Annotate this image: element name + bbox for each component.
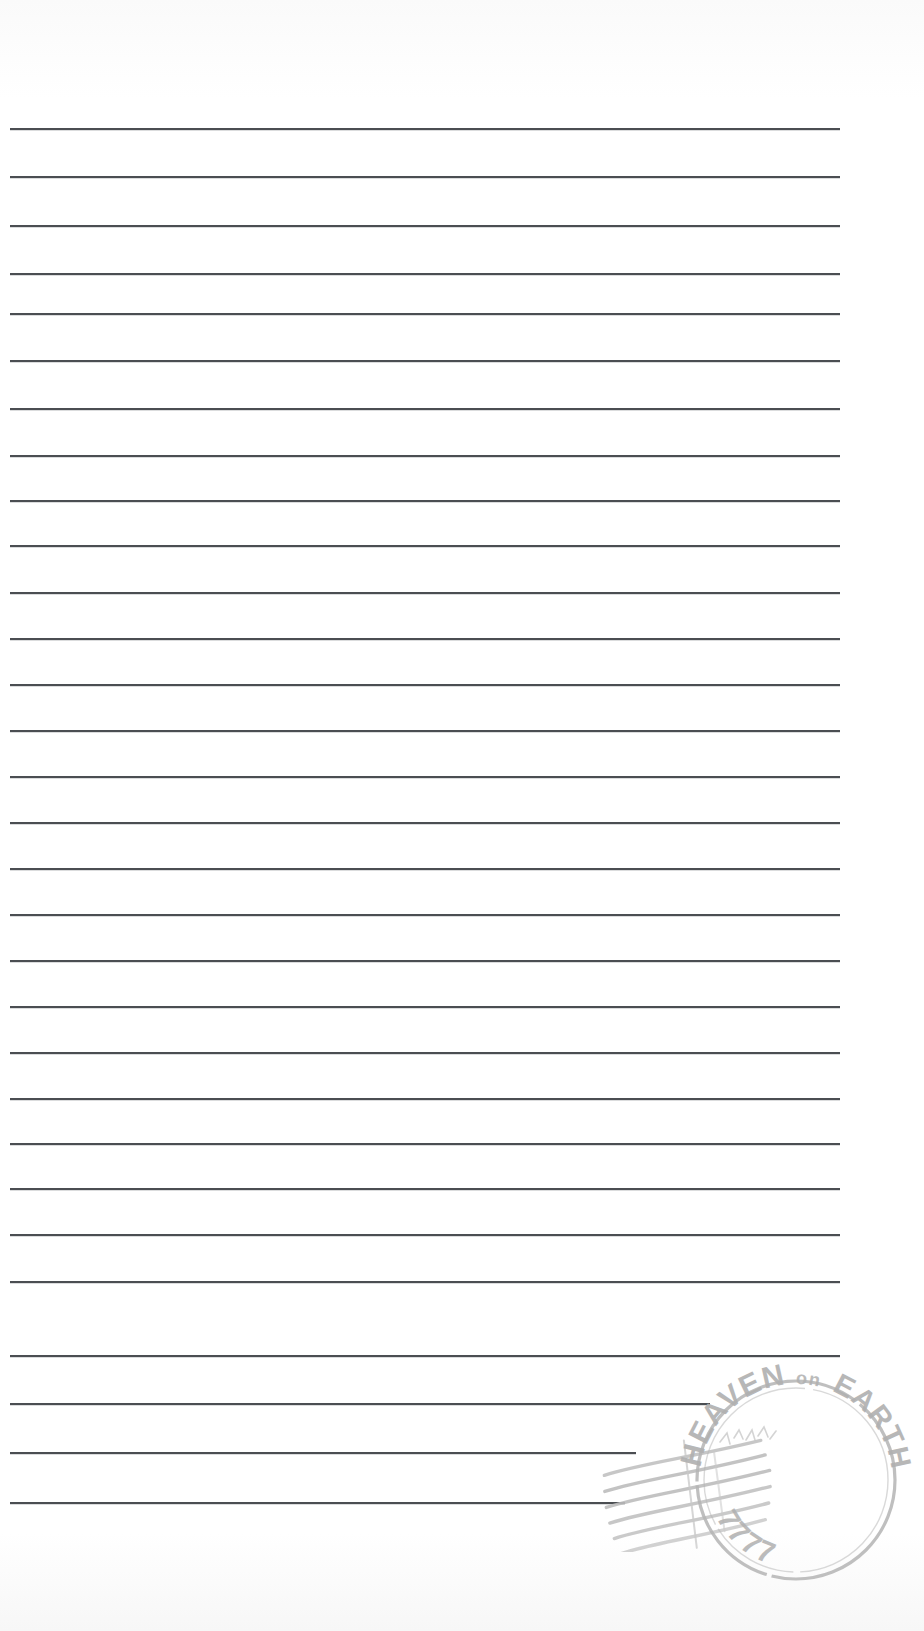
rule-line (10, 500, 840, 502)
rule-line (10, 273, 840, 275)
rule-line (10, 592, 840, 594)
ruled-lines-group (0, 0, 924, 1631)
rule-line (10, 128, 840, 130)
rule-line (10, 822, 840, 824)
rule-line (10, 1234, 840, 1236)
rule-line (10, 1281, 840, 1283)
rule-line (10, 776, 840, 778)
rule-line (10, 360, 840, 362)
rule-line (10, 1452, 636, 1454)
rule-line (10, 1502, 625, 1504)
rule-line (10, 914, 840, 916)
rule-line (10, 545, 840, 547)
notepaper-page: HEAVEN on EARTH 7777 (0, 0, 924, 1631)
rule-line (10, 225, 840, 227)
rule-line (10, 313, 840, 315)
rule-line (10, 730, 840, 732)
rule-line (10, 176, 840, 178)
rule-line (10, 455, 840, 457)
rule-line (10, 960, 840, 962)
rule-line (10, 1143, 840, 1145)
rule-line (10, 684, 840, 686)
rule-line (10, 1006, 840, 1008)
rule-line (10, 1188, 840, 1190)
rule-line (10, 868, 840, 870)
rule-line (10, 408, 840, 410)
rule-line (10, 638, 840, 640)
rule-line (10, 1403, 710, 1405)
rule-line (10, 1355, 840, 1357)
rule-line (10, 1098, 840, 1100)
rule-line (10, 1052, 840, 1054)
